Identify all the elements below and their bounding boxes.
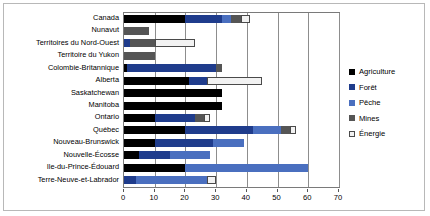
plot-area <box>123 12 340 188</box>
category-label-manitoba: Manitoba <box>89 99 119 111</box>
bar-segment-foret <box>185 15 222 23</box>
tick-label-50: 50 <box>272 193 280 202</box>
bar-row-terre-neuve-et-labrador <box>124 175 339 187</box>
chart-frame: CanadaNunavutTerritoires du Nord-OuestTe… <box>3 3 425 211</box>
category-label-nouveau-brunswick: Nouveau-Brunswick <box>53 136 119 148</box>
tick-label-0: 0 <box>121 193 125 202</box>
legend-item-mines: Mines <box>349 111 425 127</box>
category-label-terre-neuve-et-labrador: Terre-Neuve-et-Labrador <box>38 174 119 186</box>
bar-segment-agriculture <box>124 89 222 97</box>
bar-row-canada <box>124 13 339 25</box>
legend-swatch-foret <box>349 84 355 90</box>
tick-label-30: 30 <box>211 193 219 202</box>
stacked-bar <box>124 89 222 97</box>
bar-segment-energie <box>207 176 216 184</box>
stacked-bar <box>124 64 222 72</box>
category-label-ontario: Ontario <box>95 111 119 123</box>
category-label-saskatchewan: Saskatchewan <box>71 87 119 99</box>
legend-item-foret: Forêt <box>349 80 425 96</box>
tick-mark <box>277 189 278 192</box>
legend-swatch-energie <box>349 131 355 137</box>
category-label-ile-du-prince-edouard: Ile-du-Prince-Édouard <box>47 161 119 173</box>
bar-segment-peche <box>222 15 231 23</box>
stacked-bar <box>124 15 250 23</box>
legend-swatch-mines <box>349 115 355 121</box>
bar-row-quebec <box>124 125 339 137</box>
tick-mark <box>246 189 247 192</box>
category-label-quebec: Québec <box>93 124 119 136</box>
category-label-nunavut: Nunavut <box>91 24 119 36</box>
bar-segment-mines <box>231 15 240 23</box>
category-label-alberta: Alberta <box>96 74 119 86</box>
bar-segment-agriculture <box>124 102 222 110</box>
legend-swatch-peche <box>349 100 355 106</box>
x-axis: 010203040506070 <box>123 189 340 205</box>
stacked-bar <box>124 27 149 35</box>
bar-row-ontario <box>124 112 339 124</box>
bar-segment-agriculture <box>124 77 189 85</box>
category-label-colombie-britannique: Colombie-Britannique <box>48 62 119 74</box>
bar-segment-agriculture <box>124 126 185 134</box>
bar-segment-energie <box>204 114 210 122</box>
bar-segment-agriculture <box>124 114 155 122</box>
tick-label-70: 70 <box>334 193 342 202</box>
bar-segment-foret <box>124 176 136 184</box>
legend-label: Énergie <box>359 129 385 138</box>
category-label-nouvelle-ecosse: Nouvelle-Écosse <box>64 149 119 161</box>
bar-segment-foret <box>189 77 207 85</box>
bar-segment-agriculture <box>124 164 185 172</box>
tick-label-60: 60 <box>303 193 311 202</box>
bar-segment-energie <box>207 77 262 85</box>
bar-row-saskatchewan <box>124 88 339 100</box>
bar-row-manitoba <box>124 100 339 112</box>
stacked-bar <box>124 139 244 147</box>
tick-mark <box>307 189 308 192</box>
tick-mark <box>123 189 124 192</box>
bar-segment-energie <box>155 39 195 47</box>
bar-segment-foret <box>185 126 253 134</box>
bar-segment-mines <box>130 39 155 47</box>
legend-label: Agriculture <box>359 67 395 76</box>
bar-segment-agriculture <box>124 15 185 23</box>
bar-segment-agriculture <box>124 151 139 159</box>
bar-segment-foret <box>155 139 213 147</box>
bar-row-territoires-du-nord-ouest <box>124 38 339 50</box>
tick-mark <box>338 189 339 192</box>
stacked-bar <box>124 102 222 110</box>
bar-segment-foret <box>127 64 216 72</box>
bar-segment-peche <box>136 176 207 184</box>
stacked-bar <box>124 151 210 159</box>
bar-segment-agriculture <box>124 139 155 147</box>
tick-mark <box>215 189 216 192</box>
legend-label: Mines <box>359 114 379 123</box>
bar-rows <box>124 13 339 187</box>
category-label-territoires-du-nord-ouest: Territoires du Nord-Ouest <box>36 37 119 49</box>
stacked-bar <box>124 126 296 134</box>
bar-segment-foret <box>155 114 195 122</box>
legend-item-peche: Pêche <box>349 95 425 111</box>
legend-label: Pêche <box>359 98 381 107</box>
tick-mark <box>154 189 155 192</box>
bar-segment-energie <box>241 15 250 23</box>
bar-segment-mines <box>216 64 222 72</box>
legend-swatch-agriculture <box>349 69 355 75</box>
bar-segment-peche <box>170 151 210 159</box>
category-axis-labels: CanadaNunavutTerritoires du Nord-OuestTe… <box>8 12 121 188</box>
bar-segment-foret <box>139 151 170 159</box>
tick-label-40: 40 <box>242 193 250 202</box>
bar-segment-mines <box>124 52 155 60</box>
bar-row-ile-du-prince-edouard <box>124 162 339 174</box>
bar-segment-mines <box>281 126 290 134</box>
bar-segment-energie <box>290 126 296 134</box>
bar-segment-peche <box>213 139 244 147</box>
bar-segment-mines <box>124 27 149 35</box>
bar-row-nouveau-brunswick <box>124 137 339 149</box>
stacked-bar <box>124 39 195 47</box>
tick-label-10: 10 <box>149 193 157 202</box>
chart-legend: AgricultureForêtPêcheMinesÉnergie <box>349 64 425 142</box>
stacked-bar <box>124 77 262 85</box>
bar-row-territoire-du-yukon <box>124 50 339 62</box>
gridline <box>339 13 340 187</box>
stacked-bar <box>124 164 308 172</box>
legend-item-energie: Énergie <box>349 126 425 142</box>
